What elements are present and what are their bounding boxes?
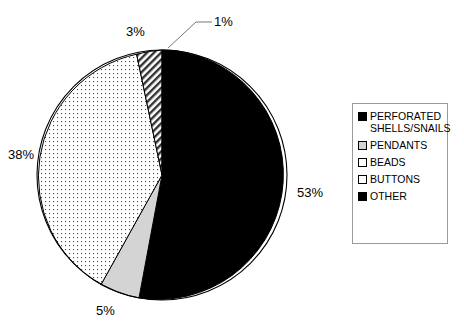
legend-swatch-white-empty-icon bbox=[358, 158, 367, 167]
pie-label-pendants: 5% bbox=[96, 303, 115, 318]
legend-swatch-solid-gray-icon bbox=[358, 141, 367, 150]
legend-item-list: PERFORATED SHELLS/SNAILS PENDANTS BEADS … bbox=[358, 110, 446, 207]
pie-label-other: 53% bbox=[297, 185, 323, 200]
legend-item-buttons: BUTTONS bbox=[358, 173, 446, 185]
legend-label-pendants: PENDANTS bbox=[370, 139, 427, 151]
legend-item-other: OTHER bbox=[358, 190, 446, 202]
chart-legend: PERFORATED SHELLS/SNAILS PENDANTS BEADS … bbox=[352, 103, 448, 244]
legend-swatch-solid-black-icon bbox=[358, 112, 367, 121]
pie-label-perforated-shells: 1% bbox=[214, 14, 233, 29]
legend-label-beads: BEADS bbox=[370, 156, 406, 168]
legend-item-beads: BEADS bbox=[358, 156, 446, 168]
legend-swatch-solid-black-other-icon bbox=[358, 192, 367, 201]
legend-item-perforated-shells: PERFORATED SHELLS/SNAILS bbox=[358, 110, 446, 134]
legend-item-pendants: PENDANTS bbox=[358, 139, 446, 151]
legend-swatch-diagonal-hatch-icon bbox=[358, 175, 367, 184]
leader-line-1pct bbox=[168, 22, 212, 48]
pie-chart-figure: 53% 38% 5% 3% 1% PERFORATED SHELLS/SNAIL… bbox=[0, 0, 464, 330]
pie-label-buttons: 3% bbox=[126, 24, 145, 39]
legend-label-other: OTHER bbox=[370, 190, 407, 202]
pie-label-beads: 38% bbox=[8, 147, 34, 162]
legend-label-buttons: BUTTONS bbox=[370, 173, 420, 185]
legend-label-perforated-shells: PERFORATED SHELLS/SNAILS bbox=[370, 110, 451, 134]
